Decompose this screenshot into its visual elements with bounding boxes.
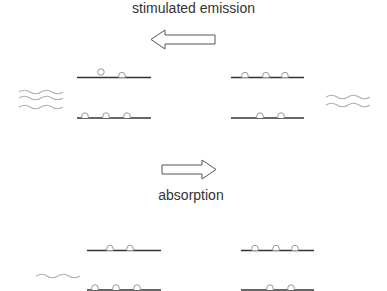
- arrow-right-icon: [162, 160, 216, 179]
- atom: [263, 72, 269, 77]
- excited-atom: [98, 69, 104, 75]
- atom: [282, 72, 288, 77]
- atom: [92, 285, 98, 290]
- atom: [103, 113, 109, 118]
- atom: [257, 113, 263, 118]
- atom: [113, 285, 119, 290]
- photon-wave: [19, 90, 63, 94]
- atom: [134, 285, 140, 290]
- arrow-left-icon: [151, 30, 215, 49]
- atom: [82, 113, 88, 118]
- atom: [252, 245, 258, 250]
- energy-level-diagram: [0, 0, 387, 291]
- atom: [124, 113, 130, 118]
- atom: [107, 245, 113, 250]
- atom: [273, 245, 279, 250]
- atom: [242, 72, 248, 77]
- atom: [288, 285, 294, 290]
- photon-wave: [326, 95, 370, 99]
- photon-wave: [326, 103, 370, 107]
- atom: [292, 245, 298, 250]
- atom: [278, 113, 284, 118]
- photon-wave: [36, 274, 80, 278]
- atom: [267, 285, 273, 290]
- photon-wave: [19, 105, 63, 109]
- photon-wave: [19, 96, 63, 100]
- atom: [119, 72, 125, 77]
- atom: [127, 245, 133, 250]
